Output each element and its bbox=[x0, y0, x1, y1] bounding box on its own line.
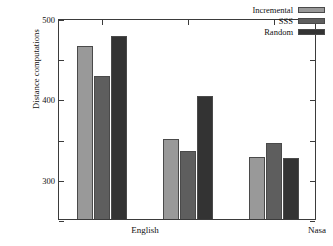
legend-item: SSS bbox=[252, 16, 325, 26]
y-tick-mark: 200 bbox=[59, 141, 64, 142]
y-tick-mark: 0 bbox=[59, 221, 64, 222]
y-tick-mark-right bbox=[310, 221, 315, 222]
y-tick-label: 400 bbox=[42, 95, 55, 105]
y-tick-mark: 500 bbox=[59, 20, 64, 21]
y-tick-mark-right bbox=[310, 141, 315, 142]
bar bbox=[163, 139, 179, 219]
legend-label: Incremental bbox=[252, 5, 293, 15]
y-tick-mark-right bbox=[310, 100, 315, 101]
bar bbox=[77, 46, 93, 219]
bar bbox=[111, 36, 127, 219]
legend-swatch bbox=[298, 18, 325, 24]
bar bbox=[180, 151, 196, 219]
y-tick-label: 500 bbox=[42, 15, 55, 25]
bar bbox=[266, 143, 282, 219]
y-tick-mark: 300 bbox=[59, 100, 64, 101]
x-tick-mark-top bbox=[188, 20, 189, 25]
bar bbox=[249, 157, 265, 219]
legend-swatch bbox=[298, 7, 325, 13]
y-axis-title: Distance computations bbox=[31, 0, 41, 149]
x-tick-label: English bbox=[131, 225, 159, 235]
bar bbox=[197, 96, 213, 219]
x-tick-label: Nasa bbox=[308, 225, 326, 235]
legend-label: SSS bbox=[279, 16, 293, 26]
y-tick-mark: 100 bbox=[59, 181, 64, 182]
legend-swatch bbox=[298, 29, 325, 35]
plot-area: 0100200300400500 EnglishNasaColor bbox=[58, 19, 316, 220]
bar bbox=[94, 76, 110, 219]
legend-item: Random bbox=[252, 27, 325, 37]
y-tick-mark-right bbox=[310, 181, 315, 182]
x-tick-mark-top bbox=[102, 20, 103, 25]
legend-label: Random bbox=[264, 27, 293, 37]
y-tick-mark: 400 bbox=[59, 60, 64, 61]
legend-item: Incremental bbox=[252, 5, 325, 15]
chart-legend: IncrementalSSSRandom bbox=[250, 4, 327, 38]
y-tick-label: 300 bbox=[42, 176, 55, 186]
bar-chart: Distance computations 0100200300400500 E… bbox=[0, 0, 333, 246]
bar bbox=[283, 158, 299, 219]
y-tick-mark-right bbox=[310, 60, 315, 61]
